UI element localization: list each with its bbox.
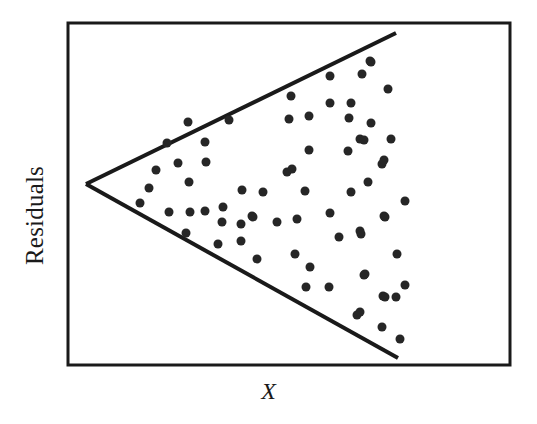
scatter-point (305, 112, 314, 121)
scatter-point (174, 159, 183, 168)
scatter-point (401, 281, 410, 290)
scatter-point (287, 92, 296, 101)
scatter-point (184, 118, 193, 127)
scatter-point (384, 85, 393, 94)
scatter-point (214, 240, 223, 249)
y-axis-label: Residuals (21, 166, 49, 265)
scatter-point (387, 135, 396, 144)
scatter-point (238, 186, 247, 195)
scatter-point (249, 213, 258, 222)
scatter-point (364, 178, 373, 187)
plot-canvas (0, 0, 537, 424)
scatter-point (219, 203, 228, 212)
scatter-point (380, 156, 389, 165)
scatter-point (326, 99, 335, 108)
scatter-points (136, 57, 410, 344)
scatter-point (356, 308, 365, 317)
scatter-point (335, 233, 344, 242)
scatter-point (325, 283, 334, 292)
scatter-point (347, 188, 356, 197)
scatter-point (145, 184, 154, 193)
scatter-point (360, 136, 369, 145)
scatter-point (326, 72, 335, 81)
scatter-point (357, 230, 366, 239)
scatter-point (293, 215, 302, 224)
scatter-point (253, 255, 262, 264)
scatter-point (392, 293, 401, 302)
scatter-point (302, 283, 311, 292)
scatter-point (347, 99, 356, 108)
scatter-point (136, 199, 145, 208)
scatter-point (378, 323, 387, 332)
scatter-point (288, 165, 297, 174)
scatter-point (165, 208, 174, 217)
x-axis-label: X (0, 378, 537, 405)
scatter-point (396, 335, 405, 344)
scatter-point (163, 139, 172, 148)
scatter-point (301, 187, 310, 196)
scatter-point (326, 209, 335, 218)
scatter-point (358, 70, 367, 79)
scatter-point (306, 263, 315, 272)
scatter-point (291, 250, 300, 259)
scatter-point (381, 293, 390, 302)
scatter-point (401, 197, 410, 206)
scatter-point (361, 270, 370, 279)
scatter-point (285, 115, 294, 124)
scatter-point (345, 114, 354, 123)
scatter-point (201, 138, 210, 147)
residual-plot-figure: Residuals X (0, 0, 537, 424)
scatter-point (237, 220, 246, 229)
scatter-point (225, 116, 234, 125)
scatter-point (186, 208, 195, 217)
scatter-point (202, 158, 211, 167)
scatter-point (201, 207, 210, 216)
scatter-point (273, 218, 282, 227)
plot-frame-rect (68, 23, 510, 365)
scatter-point (259, 188, 268, 197)
scatter-point (367, 58, 376, 67)
scatter-point (305, 146, 314, 155)
scatter-point (381, 213, 390, 222)
scatter-point (152, 166, 161, 175)
upper-envelope-line (86, 33, 396, 184)
scatter-point (237, 237, 246, 246)
scatter-point (393, 250, 402, 259)
scatter-point (218, 218, 227, 227)
scatter-point (185, 178, 194, 187)
scatter-point (367, 119, 376, 128)
plot-frame (68, 23, 510, 365)
lower-envelope-line (86, 184, 398, 358)
scatter-point (182, 229, 191, 238)
scatter-point (344, 147, 353, 156)
